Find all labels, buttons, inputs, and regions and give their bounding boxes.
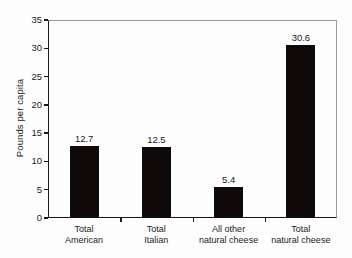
bar-value-label: 12.5	[131, 134, 181, 145]
y-tick-label: 25	[20, 72, 42, 82]
y-tick-mark	[44, 189, 48, 191]
x-category-label-line1: Total	[291, 224, 310, 234]
bar	[70, 146, 99, 218]
bar-value-label: 12.7	[59, 133, 109, 144]
y-tick-label: 0	[20, 213, 42, 223]
x-category-label-line1: Total	[147, 224, 166, 234]
bar-value-label: 5.4	[204, 174, 254, 185]
x-category-label-line1: Total	[75, 224, 94, 234]
y-tick-mark	[44, 104, 48, 106]
x-category-label-line1: All other	[212, 224, 245, 234]
y-tick-label: 20	[20, 100, 42, 110]
y-tick-label: 5	[20, 185, 42, 195]
bar-chart: Pounds per capita 0510152025303512.7Tota…	[0, 0, 352, 258]
y-tick-mark	[44, 76, 48, 78]
x-tick-mark	[265, 218, 267, 222]
y-tick-label: 15	[20, 128, 42, 138]
bar	[214, 187, 243, 218]
bar-value-label: 30.6	[276, 32, 326, 43]
bar	[142, 147, 171, 218]
y-tick-mark	[44, 217, 48, 219]
y-tick-mark	[44, 19, 48, 21]
x-tick-mark	[120, 218, 122, 222]
x-tick-mark	[193, 218, 195, 222]
y-tick-mark	[44, 132, 48, 134]
bar	[286, 45, 315, 218]
y-tick-label: 35	[20, 15, 42, 25]
x-category-label: Totalnatural cheese	[256, 224, 346, 246]
y-tick-mark	[44, 48, 48, 50]
x-category-label-line2: natural cheese	[256, 235, 346, 246]
y-tick-label: 10	[20, 156, 42, 166]
y-tick-mark	[44, 161, 48, 163]
y-tick-label: 30	[20, 43, 42, 53]
